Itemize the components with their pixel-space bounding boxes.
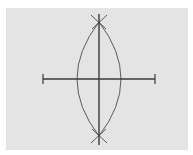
bisector-diagram (0, 0, 193, 155)
